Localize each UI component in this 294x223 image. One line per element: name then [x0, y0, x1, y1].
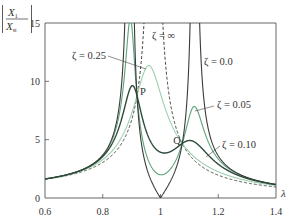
curve-0.25 [45, 66, 276, 186]
x-tick-label: 1.4 [270, 206, 283, 217]
y-label-denominator: Xst [5, 20, 17, 33]
fixed-point-q: Q [173, 135, 181, 146]
x-axis-label: λ [280, 187, 286, 199]
series-label: ζ = 0.05 [217, 99, 251, 111]
y-label-numerator: X1 [7, 6, 18, 19]
frequency-response-chart: 0.60.811.21.4051015 ζ = 0.25ζ = ∞ζ = 0.0… [0, 0, 294, 223]
fixed-point-p: P [140, 86, 146, 97]
x-tick-label: 1.2 [212, 206, 225, 217]
series-label: ζ = 0.10 [222, 139, 256, 151]
y-axis-label: X1 Xst [3, 5, 32, 33]
series-label: ζ = ∞ [152, 30, 175, 42]
axis-ticks: 0.60.811.21.4051015 [30, 18, 282, 218]
x-tick-label: 0.8 [97, 206, 110, 217]
x-tick-label: 1 [158, 206, 163, 217]
y-tick-label: 5 [35, 134, 40, 145]
label-leader-line [108, 56, 146, 69]
y-tick-label: 10 [30, 76, 40, 87]
series-label: ζ = 0.25 [72, 50, 106, 62]
x-tick-label: 0.6 [39, 206, 52, 217]
y-tick-label: 0 [35, 193, 40, 204]
series-label: ζ = 0.0 [204, 56, 233, 68]
